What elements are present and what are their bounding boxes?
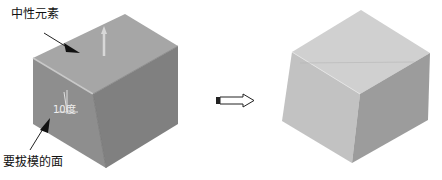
angle-label: 10度 [53, 101, 76, 116]
transition-arrow-icon [216, 94, 254, 107]
diagram-canvas [0, 0, 442, 180]
right-cube [282, 10, 430, 163]
neutral-element-label: 中性元素 [11, 4, 59, 21]
left-cube [30, 14, 178, 168]
draft-face-label: 要拔模的面 [3, 152, 63, 169]
